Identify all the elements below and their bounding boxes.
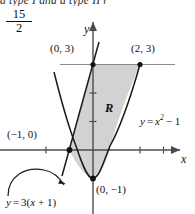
figure-container: a type I and a type II r 15 2 (0, 0, 195, 214)
point-0-3 (90, 62, 95, 67)
point-label-0-3: (0, 3) (50, 42, 74, 54)
point-neg1-0 (67, 147, 73, 153)
y-axis-arrow (89, 22, 97, 31)
parabola-eq-tail: − 1 (166, 115, 180, 127)
x-axis-arrow (171, 146, 180, 154)
point-0-neg1 (90, 176, 96, 182)
line-eq-lhs: y (6, 196, 11, 208)
line-label-leader (8, 169, 64, 196)
line-eq-rhs: 3(x + 1) (21, 196, 56, 208)
line-eq-sign: = (13, 196, 19, 208)
point-2-3 (137, 62, 142, 67)
line-equation-label: y=3(x + 1) (6, 196, 56, 208)
parabola-eq-sign: = (147, 115, 153, 127)
region-label-R: R (105, 101, 113, 116)
parabola-equation-label: y=x2− 1 (140, 113, 180, 127)
y-axis-label: y (84, 22, 89, 37)
point-label-neg1-0: (−1, 0) (7, 128, 37, 140)
x-axis-label: x (181, 152, 186, 167)
parabola-eq-exponent: 2 (160, 113, 164, 122)
point-label-0-neg1: (0, −1) (96, 183, 126, 195)
point-label-2-3: (2, 3) (131, 42, 155, 54)
plot-svg (0, 0, 195, 214)
parabola-eq-lhs: y (140, 115, 145, 127)
line-label-leader-arrowhead (57, 178, 66, 187)
